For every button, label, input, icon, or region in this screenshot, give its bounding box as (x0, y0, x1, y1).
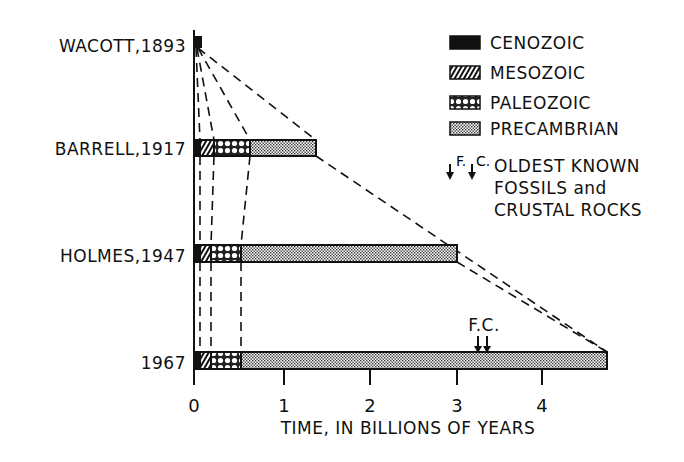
legend-fc-arrows: F. C. (446, 153, 490, 180)
x-axis (284, 368, 542, 385)
x-tick-labels: 0 1 2 3 4 (188, 395, 547, 416)
bar-holmes (194, 245, 457, 262)
legend-swatch-mesozoic (450, 66, 480, 79)
row-label-wacott: WACOTT,1893 (59, 36, 186, 56)
legend-label-precambrian: PRECAMBRIAN (490, 119, 619, 139)
svg-text:3: 3 (451, 395, 462, 416)
legend-swatch-paleozoic (450, 96, 480, 109)
legend-label-mesozoic: MESOZOIC (490, 63, 586, 83)
legend-swatch-precambrian (450, 122, 480, 135)
svg-text:F.C.: F.C. (468, 315, 500, 335)
bar-1967 (194, 352, 607, 369)
x-axis-label: TIME, IN BILLIONS OF YEARS (280, 418, 536, 438)
legend-fc-line2: FOSSILS and (494, 178, 607, 198)
chart: 0 1 2 3 4 TIME, IN BILLIONS OF YEARS WAC… (0, 0, 684, 462)
svg-text:C.: C. (476, 153, 490, 169)
bar-wacott (194, 36, 202, 48)
row-label-1967: 1967 (141, 353, 186, 373)
legend-fc-line1: OLDEST KNOWN (494, 156, 640, 176)
bar-barrell (194, 140, 316, 156)
row-label-barrell: BARRELL,1917 (55, 139, 186, 159)
legend-label-cenozoic: CENOZOIC (490, 33, 585, 53)
legend-fc-line3: CRUSTAL ROCKS (494, 200, 642, 220)
legend: CENOZOIC MESOZOIC PALEOZOIC PRECAMBRIAN … (446, 33, 642, 220)
fc-annotation: F.C. (468, 315, 500, 353)
legend-label-paleozoic: PALEOZOIC (490, 93, 591, 113)
row-label-holmes: HOLMES,1947 (60, 246, 186, 266)
svg-text:4: 4 (536, 395, 547, 416)
svg-text:F.: F. (456, 153, 466, 169)
svg-text:1: 1 (278, 395, 289, 416)
svg-text:2: 2 (364, 395, 375, 416)
legend-swatch-cenozoic (450, 36, 480, 49)
svg-text:0: 0 (188, 395, 199, 416)
